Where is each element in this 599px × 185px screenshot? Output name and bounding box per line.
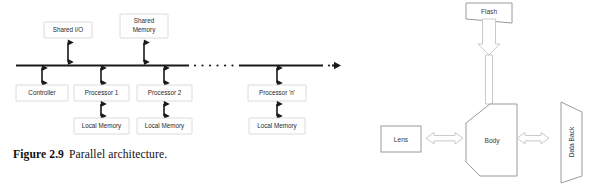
flash-label: Flash — [481, 8, 497, 15]
body-databack-connector — [517, 133, 549, 144]
local-memory-label-1: Local Memory — [82, 122, 122, 130]
lens-label: Lens — [394, 136, 409, 143]
local-memory-box-2: Local Memory — [137, 118, 192, 134]
processor-1-label: Processor 1 — [85, 89, 119, 96]
figure-page: Shared I/O Shared Memory — [0, 0, 599, 185]
local-memory-box-n: Local Memory — [249, 118, 305, 134]
shared-io-label: Shared I/O — [53, 26, 84, 33]
processor-2-box: Processor 2 — [137, 85, 192, 101]
processor-n-label: Processor 'n' — [259, 89, 295, 96]
figure-caption: Figure 2.9Parallel architecture. — [13, 148, 167, 161]
bus-continuation-dots — [194, 64, 234, 66]
local-memory-label-2: Local Memory — [145, 122, 185, 130]
bus-terminal-arrow-icon — [332, 62, 341, 69]
processor-1-box: Processor 1 — [74, 85, 129, 101]
shared-memory-label-line2: Memory — [133, 26, 157, 34]
body-label: Body — [484, 137, 500, 145]
shared-io-box: Shared I/O — [44, 22, 92, 38]
parallel-architecture-diagram: Shared I/O Shared Memory — [16, 14, 341, 134]
lens-box: Lens — [381, 126, 421, 152]
figure-caption-text: Parallel architecture. — [69, 148, 167, 161]
data-back-label: Data Back — [568, 126, 575, 157]
body-shape: Body — [466, 104, 517, 176]
processor-2-label: Processor 2 — [148, 89, 182, 96]
shared-memory-label-line1: Shared — [134, 17, 155, 24]
controller-box: Controller — [16, 85, 68, 101]
lens-body-connector — [426, 133, 463, 144]
camera-system-diagram: Flash Body Lens — [381, 3, 582, 183]
local-memory-label-n: Local Memory — [257, 122, 297, 130]
controller-label: Controller — [28, 89, 55, 96]
system-bus — [16, 62, 341, 69]
flash-body-connector — [478, 19, 500, 104]
data-back-shape: Data Back — [561, 102, 582, 183]
figure-caption-label: Figure 2.9 — [13, 148, 64, 161]
local-memory-box-1: Local Memory — [74, 118, 129, 134]
processor-n-box: Processor 'n' — [248, 85, 306, 101]
shared-memory-box: Shared Memory — [120, 14, 168, 38]
